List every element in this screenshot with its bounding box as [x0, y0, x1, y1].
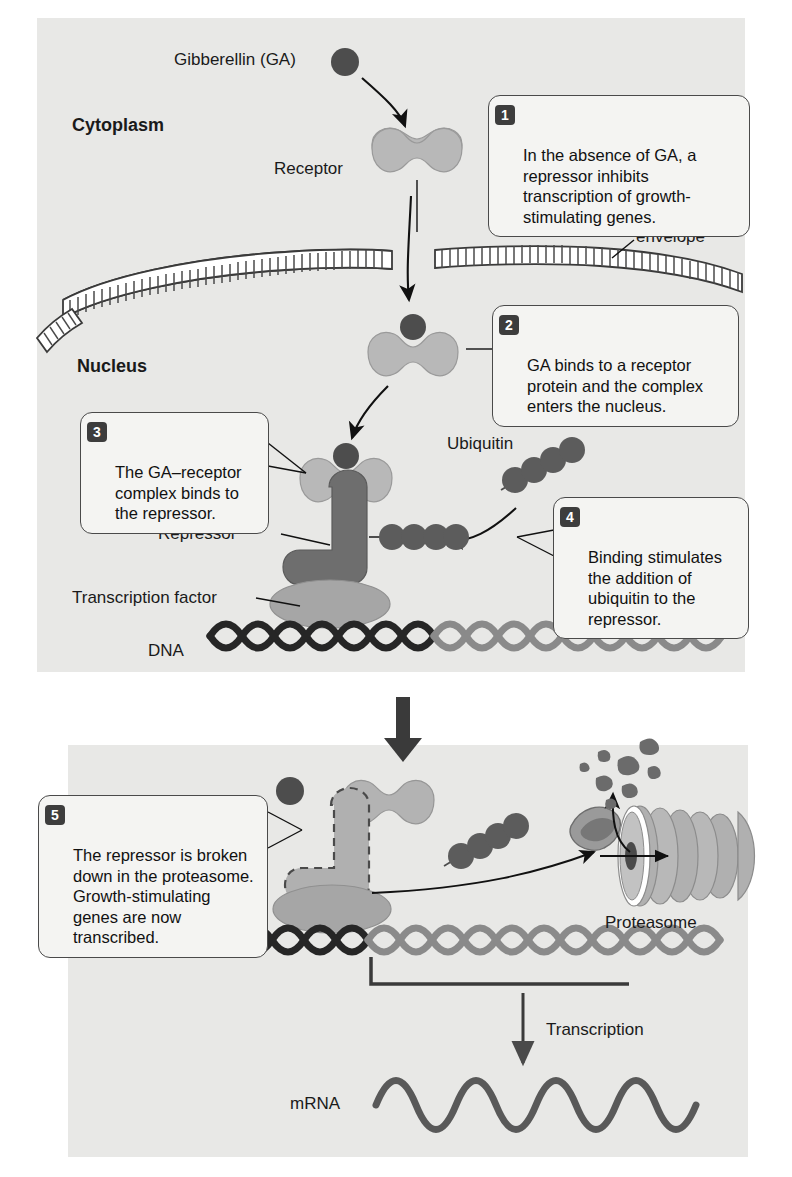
- label-gibberellin: Gibberellin (GA): [174, 50, 296, 70]
- ubiquitin-chain-attached: [369, 524, 469, 550]
- nuclear-envelope-fragment: [37, 309, 82, 352]
- arrow-ga-to-receptor: [362, 78, 405, 126]
- label-transcription: Transcription: [546, 1020, 644, 1040]
- callout-4-text: Binding stimulates the addition of ubiqu…: [588, 548, 722, 628]
- ubiquitin-chain-free: [501, 437, 585, 493]
- callout-1[interactable]: 1 In the absence of GA, a repressor inhi…: [488, 95, 750, 237]
- leader-callout-3: [268, 443, 306, 473]
- mrna-strand: [376, 1081, 696, 1130]
- label-proteasome: Proteasome: [605, 913, 697, 933]
- callout-2[interactable]: 2 GA binds to a receptor protein and the…: [492, 305, 739, 427]
- label-receptor: Receptor: [274, 159, 343, 179]
- arrow-receptor-to-nucleus: [408, 196, 411, 300]
- ga-receptor-complex: [368, 314, 458, 376]
- ga-molecule-top: [331, 48, 359, 76]
- callout-2-text: GA binds to a receptor protein and the c…: [527, 356, 703, 415]
- callout-4-badge: 4: [560, 507, 580, 527]
- nuclear-envelope-right: [435, 245, 742, 292]
- leader-callout-5: [268, 812, 302, 848]
- callout-5-text: The repressor is broken down in the prot…: [73, 846, 254, 946]
- ubiquitin-chain-released: [444, 813, 529, 869]
- callout-3[interactable]: 3 The GA–receptor complex binds to the r…: [80, 412, 269, 534]
- leader-repressor: [281, 534, 330, 545]
- label-mrna: mRNA: [290, 1094, 340, 1114]
- callout-2-badge: 2: [499, 315, 519, 335]
- nuclear-envelope-left: [63, 250, 392, 318]
- callout-5-badge: 5: [45, 805, 65, 825]
- figure-root: Gibberellin (GA) Cytoplasm Receptor Nucl…: [0, 0, 792, 1177]
- transition-arrow: [384, 697, 422, 762]
- callout-1-badge: 1: [495, 105, 515, 125]
- callout-1-text: In the absence of GA, a repressor inhibi…: [523, 146, 696, 226]
- callout-5[interactable]: 5 The repressor is broken down in the pr…: [38, 795, 268, 958]
- label-nucleus: Nucleus: [77, 356, 147, 376]
- receptor-free: [372, 128, 462, 172]
- transcription-bracket: [371, 957, 629, 984]
- callout-3-text: The GA–receptor complex binds to the rep…: [115, 463, 242, 522]
- ga-molecule-released: [276, 777, 304, 805]
- peptide-fragments: [580, 738, 661, 809]
- arrow-complex-to-repressor: [352, 386, 388, 438]
- label-ubiquitin: Ubiquitin: [447, 434, 513, 454]
- leader-callout-4: [517, 530, 554, 556]
- label-transcription-factor: Transcription factor: [72, 588, 217, 608]
- label-dna-top: DNA: [148, 641, 184, 661]
- label-cytoplasm: Cytoplasm: [72, 115, 164, 135]
- callout-4[interactable]: 4 Binding stimulates the addition of ubi…: [553, 497, 749, 639]
- ga-molecule-bound: [333, 443, 359, 469]
- callout-3-badge: 3: [87, 422, 107, 442]
